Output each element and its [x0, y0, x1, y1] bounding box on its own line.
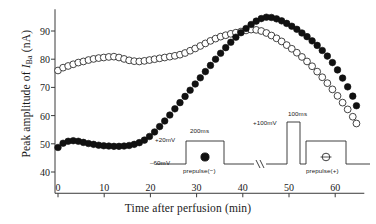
prepulse-negative-marker: [201, 153, 209, 161]
data-point: [222, 44, 229, 51]
figure-panel: Peak amplitude of IBa (nA) Time after pe…: [0, 0, 376, 224]
data-point: [227, 39, 234, 46]
voltage-protocol-inset: +20mV 200ms –60mV prepulse(−) +100mV 100…: [150, 108, 376, 182]
data-point: [197, 75, 204, 82]
inset-test-duration-label: 100ms: [288, 110, 307, 117]
data-point: [334, 92, 341, 99]
data-point: [349, 93, 356, 100]
data-point: [319, 74, 326, 81]
data-point: [309, 63, 316, 70]
data-point: [177, 99, 184, 106]
data-point: [314, 68, 321, 75]
inset-test-amplitude-label: +100mV: [253, 119, 277, 126]
data-point: [207, 62, 214, 69]
data-point: [324, 53, 331, 60]
data-point: [334, 67, 341, 74]
data-point: [314, 42, 321, 49]
data-point: [319, 47, 326, 54]
data-point: [187, 87, 194, 94]
inset-prepulse-negative-label: prepulse(−): [183, 167, 216, 174]
data-point: [202, 68, 209, 75]
data-point: [339, 99, 346, 106]
data-point: [182, 93, 189, 100]
inset-holding-potential-label: –60mV: [150, 159, 170, 166]
data-point: [339, 75, 346, 82]
data-point: [212, 56, 219, 63]
inset-prepulse-amplitude-label: +20mV: [155, 136, 175, 143]
data-point: [324, 80, 331, 87]
axis-break-icon: [256, 160, 264, 168]
inset-prepulse-positive-label: prepulse(+): [306, 167, 339, 174]
data-point: [344, 84, 351, 91]
data-point: [217, 50, 224, 57]
prepulse-positive-waveform: [266, 122, 370, 164]
data-point: [329, 86, 336, 93]
inset-prepulse-duration-label: 200ms: [190, 127, 209, 134]
data-point: [192, 81, 199, 88]
data-point: [329, 59, 336, 66]
